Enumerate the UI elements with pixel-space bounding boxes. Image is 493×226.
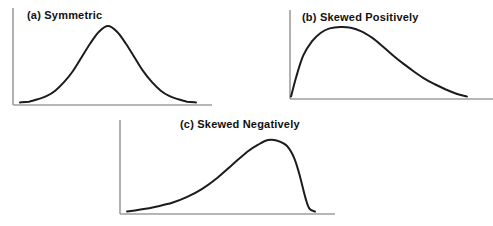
negative-skew-curve bbox=[127, 140, 315, 212]
positive-skew-curve bbox=[291, 27, 467, 97]
figure-canvas: (a) Symmetric (b) Skewed Positively (c) … bbox=[0, 0, 493, 226]
panel-label-symmetric: (a) Symmetric bbox=[27, 9, 102, 21]
symmetric-curve bbox=[20, 26, 196, 102]
panel-skewed-positively: (b) Skewed Positively bbox=[246, 0, 493, 113]
panel-skewed-negatively: (c) Skewed Negatively bbox=[100, 113, 390, 226]
panel-label-skewed-negatively: (c) Skewed Negatively bbox=[180, 118, 300, 130]
panel-label-skewed-positively: (b) Skewed Positively bbox=[302, 11, 419, 23]
panel-symmetric: (a) Symmetric bbox=[0, 0, 246, 113]
